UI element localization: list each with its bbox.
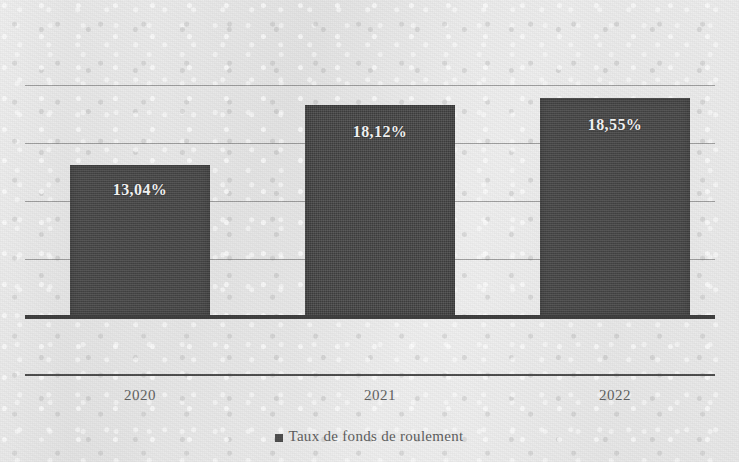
bar-2022[interactable]: 18,55% <box>540 98 690 317</box>
x-axis-label-2022: 2022 <box>540 387 690 404</box>
x-axis-label-2021: 2021 <box>305 387 455 404</box>
gridline-4 <box>25 85 715 86</box>
bar-value-label-2022: 18,55% <box>540 116 690 134</box>
legend-entry-label: Taux de fonds de roulement <box>288 428 463 445</box>
bar-value-label-2021: 18,12% <box>305 123 455 141</box>
legend-square-marker-icon <box>275 434 283 442</box>
plot-area: 13,04% 18,12% 18,55% <box>25 20 715 320</box>
chart-legend: Taux de fonds de roulement <box>0 428 739 445</box>
bar-chart-figure: 13,04% 18,12% 18,55% 2020 2021 2022 Taux… <box>0 0 739 462</box>
bar-2020[interactable]: 13,04% <box>70 165 210 317</box>
x-axis-baseline <box>25 315 715 319</box>
bar-value-label-2020: 13,04% <box>70 181 210 199</box>
bar-2021[interactable]: 18,12% <box>305 105 455 317</box>
legend-separator-line <box>25 374 715 376</box>
x-axis-label-2020: 2020 <box>70 387 210 404</box>
